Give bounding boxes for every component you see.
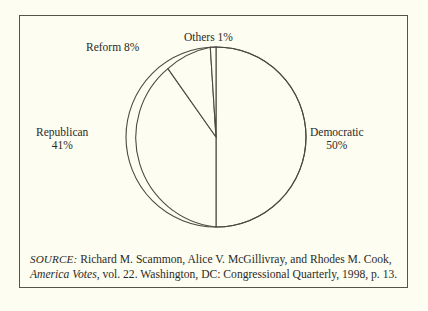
pie-label-republican-name: Republican [36, 126, 88, 138]
pie-label-reform-text: Reform 8% [86, 41, 139, 53]
source-tag: SOURCE: [30, 253, 77, 265]
source-publication: , vol. 22. Washington, DC: Congressional… [97, 268, 397, 281]
pie-label-democratic-pct: 50% [310, 139, 364, 152]
source-note: SOURCE: Richard M. Scammon, Alice V. McG… [30, 252, 398, 282]
pie-label-democratic-name: Democratic [310, 126, 364, 138]
pie-label-reform: Reform 8% [86, 41, 139, 54]
source-work-title: America Votes [30, 268, 97, 281]
pie-label-others-text: Others 1% [184, 31, 233, 43]
pie-label-republican: Republican 41% [36, 126, 88, 151]
pie-label-democratic: Democratic 50% [310, 126, 364, 151]
pie-label-others: Others 1% [184, 31, 233, 44]
pie-slice-democratic [216, 47, 306, 227]
figure-frame: Reform 8% Others 1% Republican 41% Democ… [19, 15, 408, 288]
source-authors: Richard M. Scammon, Alice V. McGillivray… [77, 253, 391, 266]
pie-chart: Reform 8% Others 1% Republican 41% Democ… [20, 16, 407, 238]
pie-label-republican-pct: 41% [36, 139, 88, 152]
